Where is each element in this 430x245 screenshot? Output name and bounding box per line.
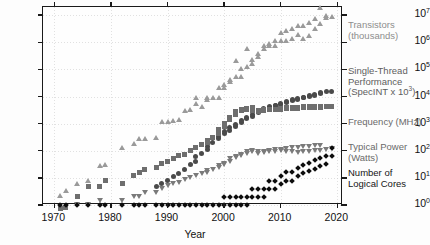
x-axis-tick-label: 1970 bbox=[33, 212, 73, 223]
y-axis-tick bbox=[38, 150, 43, 151]
data-point bbox=[278, 173, 284, 179]
x-axis-tick bbox=[337, 2, 338, 7]
data-point bbox=[256, 108, 261, 113]
data-point bbox=[136, 194, 142, 199]
data-point bbox=[289, 178, 295, 184]
data-point bbox=[210, 202, 216, 208]
data-point bbox=[103, 178, 108, 183]
x-axis-tick-label: 2020 bbox=[316, 212, 356, 223]
legend-item: Transistors(thousands) bbox=[348, 20, 398, 41]
data-point bbox=[329, 14, 335, 19]
data-point bbox=[142, 167, 147, 172]
data-point bbox=[57, 193, 63, 198]
data-point bbox=[182, 152, 187, 157]
y-axis-tick bbox=[38, 123, 43, 124]
data-point bbox=[204, 202, 210, 208]
y-axis-tick bbox=[341, 177, 347, 178]
x-axis-tick bbox=[223, 2, 224, 7]
chart-root: 107106105104103102101100 197019801990200… bbox=[0, 0, 430, 245]
data-point bbox=[120, 181, 125, 186]
x-axis-tick-label: 2000 bbox=[203, 212, 243, 223]
data-point bbox=[329, 89, 334, 94]
data-point bbox=[295, 173, 301, 179]
y-axis-tick bbox=[341, 204, 347, 205]
data-point bbox=[165, 159, 170, 164]
y-axis-tick bbox=[341, 150, 347, 151]
data-point bbox=[261, 194, 267, 200]
data-point bbox=[238, 202, 244, 208]
data-point bbox=[301, 104, 306, 109]
data-point bbox=[153, 135, 159, 140]
y-axis-tick bbox=[341, 96, 347, 97]
data-point bbox=[324, 104, 329, 109]
y-axis-tick-label: 100 bbox=[392, 198, 430, 209]
legend-item: Single-ThreadPerformance(SpecINT x 103) bbox=[348, 66, 415, 98]
x-axis-tick bbox=[223, 203, 224, 208]
data-point bbox=[188, 162, 193, 167]
y-axis-tick bbox=[38, 69, 43, 70]
data-point bbox=[142, 136, 148, 141]
data-point bbox=[317, 21, 323, 26]
data-point bbox=[193, 202, 199, 208]
data-point bbox=[255, 51, 261, 56]
data-point bbox=[171, 156, 176, 161]
data-point bbox=[301, 95, 306, 100]
data-point bbox=[176, 153, 181, 158]
data-point bbox=[199, 151, 204, 156]
data-point bbox=[227, 202, 233, 208]
x-axis-tick bbox=[167, 203, 168, 208]
data-point bbox=[102, 202, 108, 208]
data-point bbox=[278, 106, 283, 111]
data-point bbox=[289, 169, 295, 175]
data-point bbox=[272, 186, 278, 192]
x-axis-tick bbox=[54, 2, 55, 7]
data-point bbox=[153, 202, 159, 208]
x-axis-tick-label: 1980 bbox=[90, 212, 130, 223]
data-point bbox=[290, 105, 295, 110]
data-point bbox=[193, 145, 198, 150]
data-point bbox=[238, 74, 244, 79]
data-point bbox=[74, 181, 80, 186]
data-point bbox=[222, 121, 227, 126]
data-point bbox=[97, 184, 102, 189]
y-axis-tick bbox=[38, 177, 43, 178]
x-axis-tick-label: 1990 bbox=[147, 212, 187, 223]
data-point bbox=[131, 141, 137, 146]
data-point bbox=[85, 178, 91, 183]
data-point bbox=[193, 154, 198, 159]
data-points bbox=[43, 7, 341, 203]
data-point bbox=[233, 58, 239, 63]
data-point bbox=[324, 89, 329, 94]
data-point bbox=[216, 95, 222, 100]
data-point bbox=[210, 140, 215, 145]
y-axis-tick-label: 107 bbox=[392, 8, 430, 19]
data-point bbox=[244, 46, 250, 51]
data-point bbox=[119, 145, 125, 150]
data-point bbox=[75, 194, 80, 199]
data-point bbox=[317, 5, 323, 10]
data-point bbox=[176, 171, 181, 176]
data-point bbox=[284, 169, 290, 175]
legend-item: Number ofLogical Cores bbox=[348, 168, 406, 189]
data-point bbox=[193, 95, 199, 100]
data-point bbox=[131, 173, 136, 178]
data-point bbox=[312, 105, 317, 110]
data-point bbox=[119, 202, 125, 208]
x-axis-tick bbox=[110, 203, 111, 208]
data-point bbox=[306, 160, 312, 166]
data-point bbox=[222, 129, 227, 134]
data-point bbox=[273, 107, 278, 112]
x-axis-tick bbox=[167, 2, 168, 7]
data-point bbox=[318, 90, 323, 95]
data-point bbox=[142, 202, 148, 208]
x-axis-tick-label: 2010 bbox=[260, 212, 300, 223]
y-axis-tick bbox=[38, 204, 43, 205]
data-point bbox=[307, 93, 312, 98]
data-point bbox=[290, 97, 295, 102]
data-point bbox=[159, 161, 164, 166]
data-point bbox=[63, 188, 69, 193]
x-axis-title: Year bbox=[150, 228, 240, 240]
data-point bbox=[170, 202, 176, 208]
data-point bbox=[182, 167, 187, 172]
data-point bbox=[278, 181, 284, 187]
